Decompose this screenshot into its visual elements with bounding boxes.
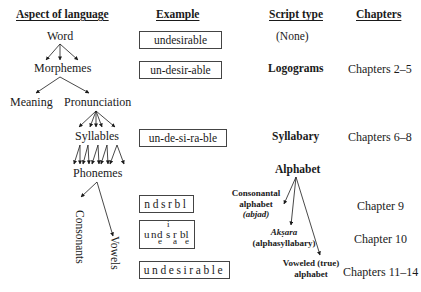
hierarchy-arrows	[0, 0, 421, 292]
